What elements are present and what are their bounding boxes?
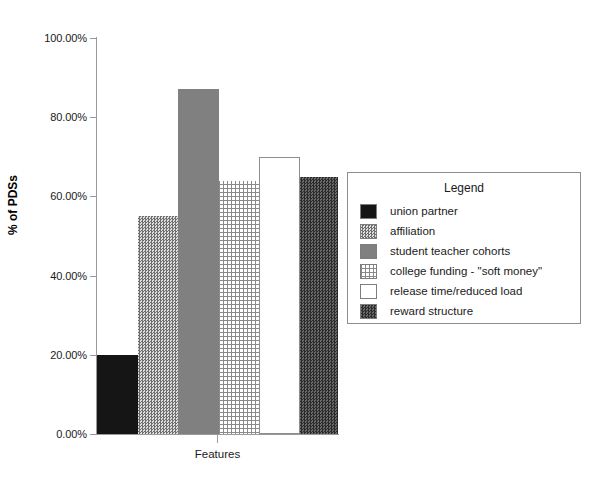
y-tick-mark-0 — [90, 434, 97, 435]
y-tick-label-100: 100.00% — [44, 33, 87, 44]
y-tick-label-40: 40.00% — [50, 271, 87, 282]
bar-student-teacher-cohorts[interactable] — [178, 89, 219, 434]
plot-area — [97, 38, 338, 434]
legend-label-reward-structure: reward structure — [390, 305, 473, 317]
legend-swatch-icon-reward-structure — [360, 304, 377, 319]
y-tick-label-0: 0.00% — [56, 429, 87, 440]
legend-label-student-teacher-cohorts: student teacher cohorts — [390, 245, 510, 257]
legend-label-union-partner: union partner — [390, 205, 458, 217]
legend-item-list: union partner affiliation student teache… — [360, 201, 572, 321]
legend-item-union-partner[interactable]: union partner — [360, 201, 572, 221]
legend-item-student-teacher-cohorts[interactable]: student teacher cohorts — [360, 241, 572, 261]
legend-item-reward-structure[interactable]: reward structure — [360, 301, 572, 321]
bar-release-time[interactable] — [259, 157, 300, 434]
legend-item-release-time[interactable]: release time/reduced load — [360, 281, 572, 301]
y-tick-label-60: 60.00% — [50, 191, 87, 202]
legend-item-affiliation[interactable]: affiliation — [360, 221, 572, 241]
legend-label-affiliation: affiliation — [390, 225, 435, 237]
y-tick-label-80: 80.00% — [50, 112, 87, 123]
bar-union-partner[interactable] — [97, 355, 138, 434]
legend-swatch-icon-student-teacher-cohorts — [360, 244, 377, 259]
legend-item-college-funding[interactable]: college funding - "soft money" — [360, 261, 572, 281]
y-tick-mark-20 — [90, 355, 97, 356]
legend-label-college-funding: college funding - "soft money" — [390, 265, 542, 277]
legend-swatch-icon-affiliation — [360, 224, 377, 239]
bar-chart: 100.00% 80.00% 60.00% 40.00% 20.00% 0.00… — [0, 0, 593, 481]
legend-title: Legend — [348, 181, 580, 195]
legend-swatch-icon-college-funding — [360, 264, 377, 279]
legend-swatch-icon-release-time — [360, 284, 377, 299]
legend-label-release-time: release time/reduced load — [390, 285, 522, 297]
y-tick-mark-100 — [90, 38, 97, 39]
legend: Legend union partner affiliation student… — [347, 172, 581, 324]
x-tick-mark — [217, 435, 218, 443]
y-tick-mark-40 — [90, 276, 97, 277]
bar-reward-structure[interactable] — [300, 177, 338, 434]
y-axis-title: % of PDSs — [6, 130, 20, 280]
bar-affiliation[interactable] — [138, 216, 178, 434]
x-axis-title: Features — [0, 448, 435, 460]
y-tick-mark-60 — [90, 196, 97, 197]
y-tick-label-20: 20.00% — [50, 350, 87, 361]
bar-college-funding[interactable] — [219, 181, 259, 434]
legend-swatch-icon-union-partner — [360, 204, 377, 219]
y-tick-mark-80 — [90, 117, 97, 118]
